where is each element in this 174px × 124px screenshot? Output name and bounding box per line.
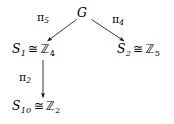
node-s1-group-subscript: 1: [21, 48, 26, 58]
node-g: G: [77, 7, 87, 20]
node-s1-group: S: [12, 41, 21, 56]
edge-label-pi4: π4: [112, 14, 124, 27]
commutative-diagram: G S1≅ℤ4 S2≅ℤ5 S10≅ℤ2 π5 π4 π2: [0, 0, 174, 124]
arrow-g-to-s1: [48, 20, 77, 42]
edge-label-pi2-subscript: 2: [26, 76, 31, 85]
node-s10-group-subscript: 10: [21, 105, 31, 115]
edge-label-pi5: π5: [37, 12, 49, 25]
node-s2: S2≅ℤ5: [117, 43, 160, 57]
edge-label-pi2: π2: [19, 72, 31, 85]
node-s10-iso-target: ℤ: [46, 99, 55, 113]
node-s10-group: S: [12, 98, 21, 113]
node-s2-group-subscript: 2: [126, 48, 131, 58]
node-s2-group: S: [117, 41, 126, 56]
edge-label-pi4-subscript: 4: [119, 18, 124, 27]
node-s10-iso-subscript: 2: [55, 105, 60, 115]
node-s2-iso-target: ℤ: [146, 42, 155, 56]
node-s2-relation: ≅: [133, 42, 143, 56]
node-g-symbol: G: [77, 5, 87, 20]
node-s10: S10≅ℤ2: [12, 100, 60, 114]
edge-label-pi5-subscript: 5: [44, 16, 49, 25]
node-s1-iso-target: ℤ: [41, 42, 50, 56]
node-s2-iso-subscript: 5: [155, 48, 160, 58]
node-s10-relation: ≅: [34, 99, 44, 113]
node-s1-iso-subscript: 4: [50, 48, 55, 58]
node-s1: S1≅ℤ4: [12, 43, 55, 57]
node-s1-relation: ≅: [28, 42, 38, 56]
